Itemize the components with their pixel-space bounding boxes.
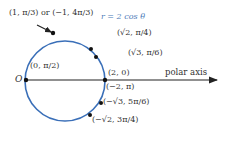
label-top-point: (1, π/3) or (−1, 4π/3) (9, 9, 93, 17)
circle-curve (25, 41, 105, 121)
label-neg2-pi: (−2, π) (106, 83, 134, 91)
point-sqrt3 (94, 55, 98, 59)
pointer-arrow (37, 25, 51, 32)
equation-label: r = 2 cos θ (101, 13, 145, 21)
label-sqrt3-pi6: (√3, π/6) (128, 49, 163, 57)
label-negsqrt2: (−√2, 3π/4) (92, 116, 138, 124)
origin-label: O (15, 75, 22, 84)
label-negsqrt3: (−√3, 5π/6) (103, 98, 149, 106)
polar-axis-label: polar axis (165, 68, 207, 77)
label-sqrt2-pi4: (√2, π/4) (117, 29, 152, 37)
label-2-0: (2, 0) (108, 69, 130, 77)
point-origin (24, 78, 28, 82)
label-0-pi2: (0, π/2) (30, 62, 59, 70)
point-top (51, 31, 55, 35)
point-sqrt2 (89, 47, 93, 51)
